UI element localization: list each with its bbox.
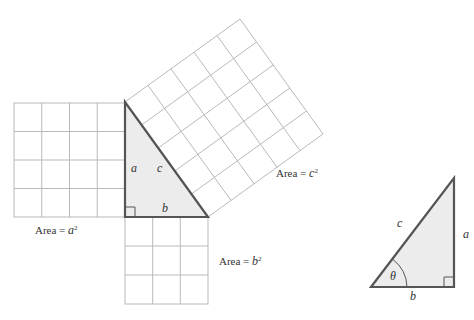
square-a-grid (14, 103, 125, 217)
right-theta-label: θ (390, 269, 396, 283)
left-side-c-label: c (157, 161, 163, 175)
left-triangle (125, 102, 208, 217)
right-side-b-label: b (410, 289, 416, 303)
pythagorean-diagram: a c b Area = a2 Area = b2 Area = c2 θ c … (0, 0, 474, 320)
square-b-grid (125, 217, 208, 304)
right-side-c-label: c (397, 216, 403, 230)
right-side-a-label: a (463, 227, 469, 241)
left-side-a-label: a (131, 161, 137, 175)
left-side-b-label: b (162, 201, 168, 215)
area-a-label: Area = a2 (35, 223, 78, 237)
area-c-label: Area = c2 (276, 166, 318, 180)
area-b-label: Area = b2 (219, 254, 262, 268)
right-triangle (371, 178, 454, 287)
